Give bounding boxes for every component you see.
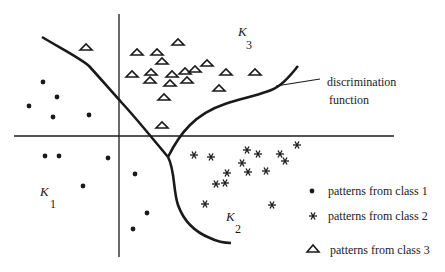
legend-dot-icon [310, 189, 315, 194]
class1-point [131, 227, 136, 232]
class1-point [81, 184, 86, 189]
legend-label-class2: patterns from class 2 [328, 209, 428, 224]
class2-point [207, 154, 215, 161]
class2-point [254, 151, 262, 158]
class3-point [201, 60, 213, 66]
class2-point [190, 152, 198, 159]
class1-point [43, 154, 48, 159]
class3-point [80, 44, 92, 50]
class3-point [126, 71, 138, 77]
class2-point [276, 151, 284, 158]
class2-point [244, 169, 252, 176]
class3-point [181, 77, 193, 83]
data-points [27, 39, 301, 231]
region-k3-subscript: 3 [246, 38, 252, 53]
class1-point [51, 115, 56, 120]
boundary-k2-k3 [168, 66, 298, 157]
class3-point [189, 66, 201, 72]
region-k2-subscript: 2 [235, 222, 241, 237]
boundary-k1-k3 [42, 37, 168, 157]
diagram-canvas [0, 0, 445, 272]
legend-label-class3: patterns from class 3 [330, 243, 430, 258]
class1-point [55, 95, 60, 100]
class2-point [293, 142, 301, 149]
class2-point [262, 168, 270, 175]
class1-point [57, 154, 62, 159]
class2-point [223, 170, 231, 177]
class3-point [144, 77, 156, 83]
class3-point [145, 69, 157, 75]
annotation-line2: function [329, 92, 369, 108]
class1-point [27, 104, 32, 109]
class3-point [158, 94, 170, 100]
class3-point [131, 49, 143, 55]
region-k2-label: K [226, 209, 235, 225]
boundary-k1-k2 [168, 157, 231, 243]
legend-asterisk-icon [309, 213, 317, 220]
class2-point [238, 160, 246, 167]
legend-label-class1: patterns from class 1 [328, 184, 428, 199]
class2-point [281, 158, 289, 165]
class1-point [106, 156, 111, 161]
class3-point [151, 49, 163, 55]
class2-point [212, 181, 220, 188]
class3-point [213, 85, 225, 91]
class1-point [145, 211, 150, 216]
class3-point [156, 58, 168, 64]
class2-point [221, 180, 229, 187]
class1-point [41, 80, 46, 85]
class3-point [249, 69, 261, 75]
class3-point [172, 39, 184, 45]
class1-point [133, 172, 138, 177]
class2-point [243, 147, 251, 154]
class3-point [156, 122, 168, 128]
legend-triangle-icon [307, 245, 319, 252]
class3-point [166, 71, 178, 77]
class3-point [164, 80, 176, 86]
class1-point [87, 113, 92, 118]
discrimination-diagram: K 3 K 1 K 2 discrimination function patt… [0, 0, 445, 272]
annotation-line1: discrimination [327, 74, 396, 90]
region-k1-label: K [40, 184, 49, 200]
region-k1-subscript: 1 [50, 197, 56, 212]
class2-point [201, 201, 209, 208]
class2-point [268, 202, 276, 209]
class3-point [220, 69, 232, 75]
